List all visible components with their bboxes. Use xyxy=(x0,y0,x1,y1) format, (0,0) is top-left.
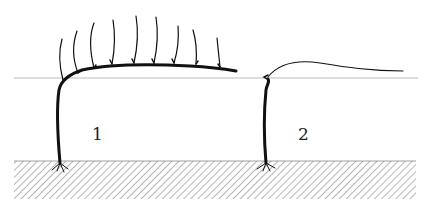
figure-2-label: 2 xyxy=(298,124,309,144)
ground xyxy=(14,161,416,199)
diagram-canvas xyxy=(0,0,427,213)
figure-1-label: 1 xyxy=(92,124,103,144)
figure-1-vine xyxy=(52,16,236,172)
